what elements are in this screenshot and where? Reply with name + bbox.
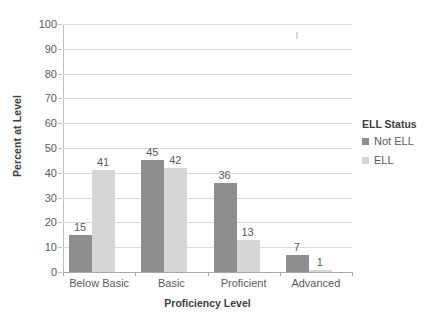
legend-swatch bbox=[362, 138, 369, 145]
y-axis-tick-label: 100 bbox=[5, 18, 57, 30]
speck-artifact bbox=[296, 32, 298, 39]
bar bbox=[141, 160, 164, 272]
y-axis-tick-mark bbox=[58, 173, 62, 174]
bar-value-label: 7 bbox=[280, 241, 314, 253]
legend-swatch bbox=[362, 157, 369, 164]
y-axis-tick-label: 50 bbox=[5, 142, 57, 154]
y-axis-tick-mark bbox=[58, 74, 62, 75]
y-axis-tick-label: 30 bbox=[5, 192, 57, 204]
y-axis-tick-label: 70 bbox=[5, 92, 57, 104]
legend-title: ELL Status bbox=[362, 118, 442, 130]
bar bbox=[92, 170, 115, 272]
y-axis-tick-label: 60 bbox=[5, 117, 57, 129]
legend-item: Not ELL bbox=[362, 135, 442, 147]
y-axis-tick-mark bbox=[58, 49, 62, 50]
legend: ELL Status Not ELLELL bbox=[362, 118, 442, 173]
y-axis-tick-mark bbox=[58, 123, 62, 124]
x-axis-tick-label: Advanced bbox=[271, 277, 361, 289]
bars-layer: 15414542361371 bbox=[63, 24, 352, 272]
x-axis-tick-mark bbox=[352, 272, 353, 276]
y-axis-tick-label: 90 bbox=[5, 43, 57, 55]
y-axis-tick-mark bbox=[58, 148, 62, 149]
x-axis-tick-mark bbox=[280, 272, 281, 276]
x-axis-tick-labels: Below BasicBasicProficientAdvanced bbox=[63, 277, 352, 295]
legend-label: Not ELL bbox=[374, 135, 414, 147]
bar bbox=[309, 270, 332, 272]
bar-group: 3613 bbox=[208, 24, 280, 272]
legend-item: ELL bbox=[362, 154, 442, 166]
x-axis-tick-mark bbox=[135, 272, 136, 276]
y-axis-tick-label: 0 bbox=[5, 266, 57, 278]
legend-items: Not ELLELL bbox=[362, 135, 442, 166]
legend-label: ELL bbox=[374, 154, 394, 166]
y-axis-tick-mark bbox=[58, 272, 62, 273]
y-axis-tick-mark bbox=[58, 198, 62, 199]
bar-chart: Percent at Level 0102030405060708090100 … bbox=[0, 0, 446, 329]
bar bbox=[237, 240, 260, 272]
bar-group: 4542 bbox=[135, 24, 207, 272]
y-axis-tick-mark bbox=[58, 24, 62, 25]
y-axis-tick-mark bbox=[58, 222, 62, 223]
bar-value-label: 41 bbox=[86, 156, 120, 168]
y-axis-tick-label: 20 bbox=[5, 216, 57, 228]
y-axis-tick-mark bbox=[58, 247, 62, 248]
x-axis-title: Proficiency Level bbox=[63, 297, 352, 309]
bar-group: 1541 bbox=[63, 24, 135, 272]
bar bbox=[164, 168, 187, 272]
x-axis-tick-mark bbox=[63, 272, 64, 276]
bar-value-label: 36 bbox=[208, 169, 242, 181]
bar bbox=[69, 235, 92, 272]
y-axis-tick-mark bbox=[58, 98, 62, 99]
bar-group: 71 bbox=[280, 24, 352, 272]
x-axis-tick-mark bbox=[208, 272, 209, 276]
y-axis-tick-label: 80 bbox=[5, 68, 57, 80]
y-axis-tick-labels: 0102030405060708090100 bbox=[0, 24, 57, 272]
y-axis-tick-label: 10 bbox=[5, 241, 57, 253]
bar-value-label: 1 bbox=[303, 256, 337, 268]
bar-value-label: 13 bbox=[231, 226, 265, 238]
bar-value-label: 42 bbox=[158, 154, 192, 166]
y-axis-tick-label: 40 bbox=[5, 167, 57, 179]
